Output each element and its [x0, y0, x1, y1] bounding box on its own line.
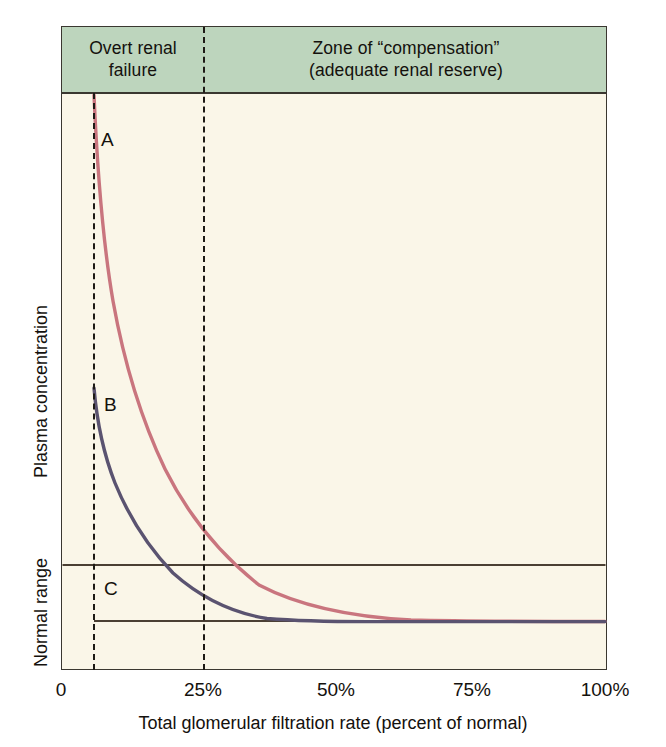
zone-band: Overt renal failure Zone of “compensatio… — [61, 26, 607, 93]
y-axis-title: Plasma concentration — [31, 305, 52, 478]
plot-area — [61, 93, 607, 670]
zone-label-compensation: Zone of “compensation” (adequate renal r… — [204, 37, 608, 81]
x-axis-title: Total glomerular filtration rate (percen… — [0, 713, 666, 734]
curve-label-a: A — [101, 129, 114, 151]
curve-label-c: C — [104, 578, 118, 600]
quarter-gfr-line — [203, 27, 205, 670]
xtick-75: 75% — [432, 679, 512, 701]
zone-right-line1: Zone of “compensation” — [204, 37, 608, 59]
zone-right-line2: (adequate renal reserve) — [204, 59, 608, 81]
zone-left-line1: Overt renal — [62, 37, 204, 59]
xtick-100: 100% — [560, 679, 650, 701]
renal-function-chart: Overt renal failure Zone of “compensatio… — [0, 0, 666, 747]
plot-inner — [62, 94, 606, 669]
curves-svg — [61, 93, 607, 670]
curve-b — [94, 388, 605, 622]
zone-left-line2: failure — [62, 59, 204, 81]
xtick-0: 0 — [41, 679, 81, 701]
xtick-50: 50% — [296, 679, 376, 701]
normal-range-label: Normal range — [31, 558, 52, 667]
zone-label-overt-renal-failure: Overt renal failure — [62, 37, 204, 81]
renal-failure-threshold-line — [93, 93, 95, 670]
xtick-25: 25% — [163, 679, 243, 701]
curve-label-b: B — [104, 394, 117, 416]
curve-a — [94, 95, 605, 622]
